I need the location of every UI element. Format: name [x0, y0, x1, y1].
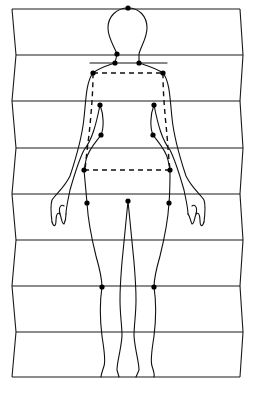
- left-hip-line: [84, 170, 87, 203]
- landmark-head-top: [125, 5, 130, 10]
- landmark-neck-left: [114, 51, 119, 56]
- landmark-hip-right: [167, 167, 172, 172]
- reference-lines: [84, 63, 170, 170]
- shoulder-left-line: [93, 63, 115, 73]
- body-measurement-diagram: [0, 0, 258, 399]
- landmark-armpit-left: [97, 102, 102, 107]
- right-leg-outer: [151, 203, 169, 377]
- right-hand: [188, 213, 204, 225]
- landmark-thigh-right: [166, 200, 171, 205]
- landmark-neck-base-right: [136, 60, 141, 65]
- landmark-neck-base-left: [112, 60, 117, 65]
- right-hip-line: [169, 170, 170, 203]
- left-zigzag-edge: [12, 9, 16, 377]
- left-leg-inner: [117, 201, 128, 377]
- landmark-thigh-left: [84, 200, 89, 205]
- shoulder-right-line: [139, 63, 163, 73]
- landmark-hip-left: [81, 167, 86, 172]
- left-thumb: [59, 205, 64, 214]
- left-hand: [52, 213, 66, 225]
- left-leg-outer: [87, 203, 105, 377]
- right-arm-inner: [154, 105, 188, 214]
- left-arm-inner: [66, 105, 100, 214]
- landmark-shoulder-left: [90, 70, 95, 75]
- grid-frame: [12, 9, 243, 377]
- right-leg-inner: [128, 201, 139, 377]
- landmark-bust-right: [150, 132, 155, 137]
- right-zigzag-edge: [240, 9, 243, 377]
- landmark-knee-right: [151, 284, 156, 289]
- side-seam-left: [85, 73, 93, 170]
- landmark-knee-left: [99, 284, 104, 289]
- left-bust-curve: [84, 105, 103, 170]
- landmark-shoulder-right: [160, 70, 165, 75]
- landmark-crotch: [125, 198, 130, 203]
- right-thumb: [192, 205, 197, 214]
- landmark-bust-left: [98, 132, 103, 137]
- landmark-armpit-right: [151, 102, 156, 107]
